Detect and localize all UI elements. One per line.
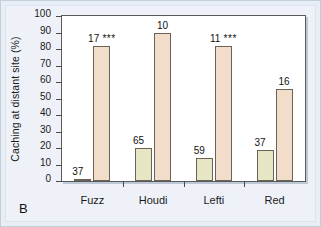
x-axis-divider xyxy=(244,181,245,187)
significance-marker: *** xyxy=(99,33,115,44)
bar-value-label: 59 xyxy=(182,146,205,156)
bar xyxy=(154,33,171,182)
plot-frame: Caching at distant site (%) 100908070605… xyxy=(61,15,306,182)
x-axis-divider xyxy=(123,181,124,187)
bar xyxy=(135,148,152,181)
bar-value-label: 17 *** xyxy=(79,34,124,44)
bar-sample-size: 59 xyxy=(194,145,205,156)
x-axis-group: Lefti5911 *** xyxy=(184,16,245,181)
panel-letter: B xyxy=(19,201,28,216)
y-axis-tick-mark xyxy=(56,181,62,182)
y-axis-tick-label: 30 xyxy=(40,125,51,135)
bar xyxy=(74,179,91,181)
x-axis-group-label: Lefti xyxy=(184,194,245,206)
bar-sample-size: 17 xyxy=(88,33,99,44)
bar-value-label: 10 xyxy=(140,21,185,31)
y-axis-tick-label: 50 xyxy=(40,92,51,102)
bar-value-label: 37 xyxy=(60,167,83,177)
y-axis-tick-label: 70 xyxy=(40,59,51,69)
y-axis-tick-label: 0 xyxy=(45,174,51,184)
y-axis-tick-label: 20 xyxy=(40,141,51,151)
bar-value-label: 11 *** xyxy=(201,34,246,44)
x-axis-divider xyxy=(184,181,185,187)
bar xyxy=(276,89,293,181)
bar xyxy=(215,46,232,181)
bar-sample-size: 37 xyxy=(255,137,266,148)
bar xyxy=(93,46,110,181)
bar-sample-size: 10 xyxy=(157,20,168,31)
bar-sample-size: 16 xyxy=(279,76,290,87)
bar-value-label: 16 xyxy=(262,77,307,87)
figure-panel: Caching at distant site (%) 100908070605… xyxy=(0,0,321,227)
significance-marker: *** xyxy=(220,33,236,44)
x-axis-group: Houdi6510 xyxy=(123,16,184,181)
x-axis-group-label: Red xyxy=(244,194,305,206)
bar-sample-size: 11 xyxy=(210,33,220,44)
y-axis-tick-label: 10 xyxy=(40,158,51,168)
y-axis-tick-label: 90 xyxy=(40,26,51,36)
bar-value-label: 65 xyxy=(121,136,144,146)
x-axis-group-label: Fuzz xyxy=(62,194,123,206)
y-axis-tick-label: 60 xyxy=(40,75,51,85)
x-axis-group-label: Houdi xyxy=(123,194,184,206)
y-axis-tick-label: 80 xyxy=(40,42,51,52)
bar xyxy=(257,150,274,181)
y-axis-tick-label: 100 xyxy=(34,9,51,19)
x-axis-group: Fuzz3717 *** xyxy=(62,16,123,181)
bar-sample-size: 37 xyxy=(72,166,83,177)
bar-sample-size: 65 xyxy=(133,135,144,146)
bar-value-label: 37 xyxy=(243,138,266,148)
bar xyxy=(196,158,213,181)
y-axis-tick-label: 40 xyxy=(40,108,51,118)
x-axis-group: Red3716 xyxy=(244,16,305,181)
y-axis-title: Caching at distant site (%) xyxy=(9,36,21,161)
